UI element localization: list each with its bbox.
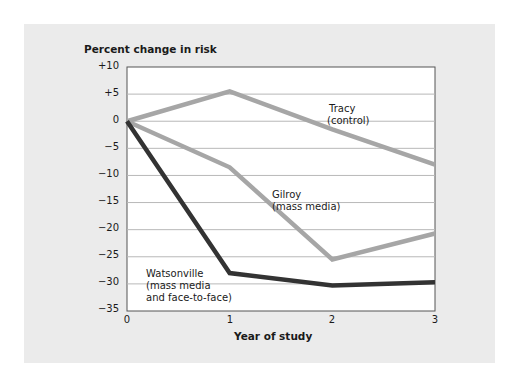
- x-tick: 0: [117, 314, 137, 325]
- watsonville-label: Watsonville (mass media and face-to-face…: [146, 268, 232, 304]
- watsonville-label-line: (mass media: [146, 280, 232, 292]
- x-tick: 1: [220, 314, 240, 325]
- watsonville-label-line: Watsonville: [146, 268, 232, 280]
- x-tick: 3: [425, 314, 445, 325]
- y-tick: +10: [89, 60, 119, 71]
- y-tick: −30: [89, 276, 119, 287]
- gilroy-label: Gilroy (mass media): [272, 189, 340, 213]
- y-tick: −20: [89, 222, 119, 233]
- x-tick: 2: [322, 314, 342, 325]
- tracy-label: Tracy (control): [327, 103, 369, 127]
- x-axis-title: Year of study: [234, 330, 312, 342]
- y-tick: −10: [89, 168, 119, 179]
- y-tick: −35: [89, 303, 119, 314]
- tracy-label-line: Tracy: [327, 103, 369, 115]
- gilroy-label-line: (mass media): [272, 201, 340, 213]
- watsonville-label-line: and face-to-face): [146, 292, 232, 304]
- y-tick: −25: [89, 249, 119, 260]
- y-tick: −15: [89, 195, 119, 206]
- tracy-label-line: (control): [327, 115, 369, 127]
- y-tick: 0: [89, 114, 119, 125]
- y-tick: +5: [89, 87, 119, 98]
- gilroy-label-line: Gilroy: [272, 189, 340, 201]
- y-tick: −5: [89, 141, 119, 152]
- y-axis-title: Percent change in risk: [84, 43, 217, 55]
